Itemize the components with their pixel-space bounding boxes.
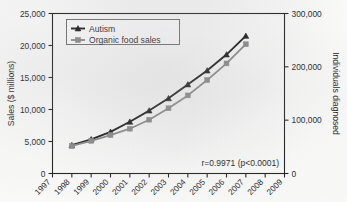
right-axis-title: Individuals diagnosed	[331, 52, 341, 135]
x-axis-tick-label: 2003	[149, 177, 169, 197]
data-series-layer	[69, 33, 249, 148]
left-axis-tick-label: 25,000	[20, 9, 46, 19]
x-axis-tick-label: 1998	[53, 177, 73, 197]
right-axis-tick-label: 0	[292, 169, 297, 179]
left-axis-tick-label: 10,000	[20, 105, 46, 115]
x-axis-tick-label: 1999	[72, 177, 92, 197]
square-marker	[76, 38, 81, 43]
x-axis-tick-label: 2005	[188, 177, 208, 197]
x-axis-tick-label: 2000	[91, 177, 111, 197]
x-axis-tick-label: 2001	[111, 177, 131, 197]
left-axis-tick-label: 15,000	[20, 73, 46, 83]
x-axis-tick-label: 2006	[207, 177, 227, 197]
left-y-axis: 05,00010,00015,00020,00025,000	[20, 9, 53, 179]
data-point-marker	[89, 138, 94, 143]
data-point-marker	[224, 61, 229, 66]
data-point-marker	[243, 42, 248, 47]
x-axis-tick-label: 2007	[227, 177, 247, 197]
correlation-annotation: r=0.9971 (p<0.0001)	[201, 158, 279, 168]
left-axis-tick-label: 0	[41, 169, 46, 179]
data-point-marker	[108, 133, 113, 138]
data-point-marker	[243, 33, 249, 38]
x-axis-tick-label: 1997	[33, 177, 53, 197]
chart-legend: AutismOrganic food sales	[67, 20, 180, 46]
left-axis-tick-label: 20,000	[20, 41, 46, 51]
dual-axis-line-chart: 05,00010,00015,00020,00025,000 0100,0002…	[0, 0, 347, 202]
right-y-axis: 0100,000200,000300,000	[285, 9, 323, 179]
data-point-marker	[127, 126, 132, 131]
chart-container: 05,00010,00015,00020,00025,000 0100,0002…	[0, 0, 347, 202]
x-axis-tick-label: 2004	[169, 177, 189, 197]
x-axis-tick-label: 2008	[246, 177, 266, 197]
data-point-marker	[147, 117, 152, 122]
right-axis-tick-label: 300,000	[292, 9, 323, 19]
x-axis: 1997199819992000200120022003200420052006…	[33, 174, 285, 197]
series-line	[72, 36, 246, 145]
x-axis-tick-label: 2002	[130, 177, 150, 197]
data-point-marker	[166, 106, 171, 111]
right-axis-tick-label: 100,000	[292, 115, 323, 125]
data-point-marker	[185, 93, 190, 98]
data-point-marker	[205, 78, 210, 83]
right-axis-tick-label: 200,000	[292, 62, 323, 72]
legend-label-1: Autism	[89, 24, 115, 34]
legend-label-2: Organic food sales	[89, 35, 161, 45]
x-axis-tick-label: 2009	[265, 177, 285, 197]
left-axis-tick-label: 5,000	[25, 137, 46, 147]
left-axis-title: Sales ($ millions)	[6, 61, 16, 127]
data-point-marker	[69, 144, 74, 149]
